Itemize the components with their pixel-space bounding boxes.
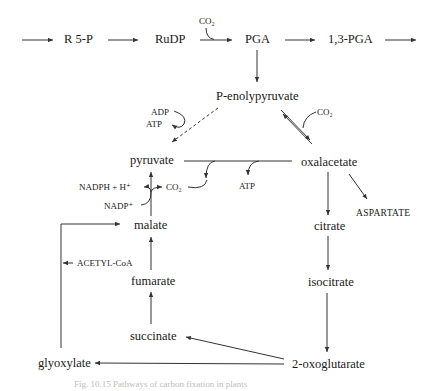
adp-atp-curve xyxy=(172,111,185,127)
label-fumarate: fumarate xyxy=(131,275,175,288)
label-glyoxylate: glyoxylate xyxy=(38,357,91,370)
label-13pga: 1,3-PGA xyxy=(328,33,373,46)
co2-release-curve xyxy=(151,187,162,192)
co2-link-curve xyxy=(188,180,207,188)
label-malate: malate xyxy=(134,219,167,232)
arrow-oxoglutarate-glyoxylate xyxy=(95,363,284,364)
label-r5p: R 5-P xyxy=(64,33,93,46)
label-atp-pep: ATP xyxy=(146,120,162,129)
label-citrate: citrate xyxy=(314,220,345,233)
label-pyruvate: pyruvate xyxy=(130,154,174,167)
arrow-oaa-aspartate xyxy=(349,174,367,199)
figure-caption: Fig. 10.15 Pathways of carbon fixation i… xyxy=(74,380,247,389)
label-pep: P-enolypyruvate xyxy=(216,90,299,103)
arrow-oxoglutarate-succinate xyxy=(186,337,284,359)
label-atp-pyr: ATP xyxy=(239,182,255,191)
label-nadph: NADPH + H⁺ xyxy=(79,183,131,192)
co2-to-line-curve xyxy=(206,161,215,178)
label-co2-pep: CO₂ xyxy=(317,108,333,117)
arrow-glyoxylate-malate xyxy=(61,224,120,348)
arrow-pep-oaa xyxy=(281,110,310,140)
label-oxoglutarate: 2-oxoglutarate xyxy=(292,358,365,371)
label-isocitrate: isocitrate xyxy=(308,276,354,289)
co2-pep-curve xyxy=(303,112,316,128)
label-co2-malic: CO₂ xyxy=(166,183,182,192)
arrow-oaa-pep xyxy=(283,114,312,144)
nadp-curve xyxy=(141,187,151,205)
label-pga: PGA xyxy=(245,33,270,46)
label-adp: ADP xyxy=(151,108,169,117)
atp-curve xyxy=(248,161,259,175)
co2-input-curve xyxy=(206,28,214,40)
label-co2-input: CO₂ xyxy=(199,17,215,26)
label-oxalacetate: oxalacetate xyxy=(301,156,357,169)
label-succinate: succinate xyxy=(130,330,177,343)
label-acetylcoa: ACETYL-CoA xyxy=(77,259,133,268)
label-rudp: RuDP xyxy=(155,33,186,46)
label-aspartate: ASPARTATE xyxy=(356,209,410,219)
label-nadp: NADP⁺ xyxy=(104,202,133,211)
